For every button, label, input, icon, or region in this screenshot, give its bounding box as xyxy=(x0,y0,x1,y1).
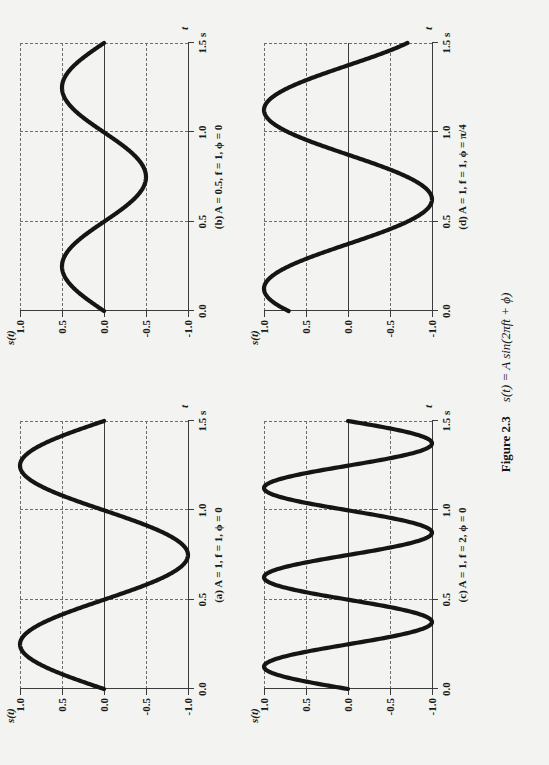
y-tick-d-3 xyxy=(390,311,391,317)
x-tick-a-0 xyxy=(188,688,194,689)
x-tick-label-c-1: 0.5 xyxy=(440,593,452,607)
chart-panel-b: 1.0 0.5 0.0 -0.5 -1.0 0.0 0.5 1.0 1.5 s … xyxy=(8,21,236,373)
y-tick-c-1 xyxy=(306,689,307,695)
x-tick-label-b-1: 0.5 xyxy=(196,215,208,229)
panel-caption-c: (c) A = 1, f = 2, ϕ = 0 xyxy=(456,421,468,689)
x-axis-title-b: t xyxy=(178,27,190,30)
y-tick-label-b-2: 0.0 xyxy=(98,320,110,334)
x-tick-label-a-0: 0.0 xyxy=(196,682,208,696)
plot-area-c: 1.0 0.5 0.0 -0.5 -1.0 0.0 0.5 1.0 1.5 s … xyxy=(264,421,432,689)
y-tick-label-a-2: 0.0 xyxy=(98,698,110,712)
y-tick-label-a-4: -1.0 xyxy=(182,698,194,715)
sine-curve-c xyxy=(264,421,432,689)
y-axis-title-d: s(t) xyxy=(248,330,260,345)
x-tick-a-2 xyxy=(188,509,194,510)
y-tick-d-4 xyxy=(432,311,433,317)
figure-sheet: 1.0 0.5 0.0 -0.5 -1.0 0.0 0.5 1.0 1.5 s … xyxy=(0,0,549,765)
y-tick-label-d-1: 0.5 xyxy=(300,320,312,334)
y-tick-c-3 xyxy=(390,689,391,695)
x-tick-d-3 xyxy=(432,42,438,43)
y-tick-label-b-4: -1.0 xyxy=(182,320,194,337)
x-axis-title-c: t xyxy=(422,405,434,408)
x-tick-c-0 xyxy=(432,688,438,689)
sine-curve-d xyxy=(264,43,432,311)
x-tick-label-d-0: 0.0 xyxy=(440,304,452,318)
x-axis-b xyxy=(188,43,189,311)
y-tick-label-c-1: 0.5 xyxy=(300,698,312,712)
y-axis-title-c: s(t) xyxy=(248,708,260,723)
y-tick-label-a-1: 0.5 xyxy=(56,698,68,712)
y-tick-a-4 xyxy=(188,689,189,695)
y-tick-label-c-2: 0.0 xyxy=(342,698,354,712)
figure-number: Figure 2.3 xyxy=(498,416,513,472)
x-tick-label-a-3: 1.5 s xyxy=(196,411,208,432)
panel-caption-d: (d) A = 1, f = 1, ϕ = π/4 xyxy=(456,43,468,311)
sine-curve-b xyxy=(20,43,188,311)
x-tick-label-c-2: 1.0 xyxy=(440,503,452,517)
figure-equation: s(t) = A sin(2πft + ϕ) xyxy=(498,293,513,402)
y-tick-a-3 xyxy=(146,689,147,695)
panel-caption-a: (a) A = 1, f = 1, ϕ = 0 xyxy=(212,421,224,689)
y-tick-b-0 xyxy=(20,311,21,317)
y-axis-title-a: s(t) xyxy=(4,708,16,723)
x-tick-d-2 xyxy=(432,131,438,132)
x-tick-label-a-1: 0.5 xyxy=(196,593,208,607)
x-tick-d-0 xyxy=(432,310,438,311)
x-tick-c-3 xyxy=(432,420,438,421)
x-tick-label-d-3: 1.5 s xyxy=(440,33,452,54)
x-tick-b-1 xyxy=(188,221,194,222)
x-tick-label-c-0: 0.0 xyxy=(440,682,452,696)
y-tick-d-1 xyxy=(306,311,307,317)
chart-panel-a: 1.0 0.5 0.0 -0.5 -1.0 0.0 0.5 1.0 1.5 s … xyxy=(8,399,236,751)
plot-area-a: 1.0 0.5 0.0 -0.5 -1.0 0.0 0.5 1.0 1.5 s … xyxy=(20,421,188,689)
x-tick-label-b-0: 0.0 xyxy=(196,304,208,318)
y-tick-c-4 xyxy=(432,689,433,695)
chart-panel-c: 1.0 0.5 0.0 -0.5 -1.0 0.0 0.5 1.0 1.5 s … xyxy=(252,399,480,751)
x-tick-b-0 xyxy=(188,310,194,311)
y-tick-label-d-2: 0.0 xyxy=(342,320,354,334)
panel-caption-b: (b) A = 0.5, f = 1, ϕ = 0 xyxy=(212,43,224,311)
x-axis-title-d: t xyxy=(422,27,434,30)
y-tick-b-4 xyxy=(188,311,189,317)
x-tick-label-d-2: 1.0 xyxy=(440,125,452,139)
y-tick-label-a-3: -0.5 xyxy=(140,698,152,715)
y-tick-label-c-3: -0.5 xyxy=(384,698,396,715)
y-axis-title-b: s(t) xyxy=(4,330,16,345)
x-tick-label-b-3: 1.5 s xyxy=(196,33,208,54)
sine-curve-a xyxy=(20,421,188,689)
x-tick-label-c-3: 1.5 s xyxy=(440,411,452,432)
x-axis-d xyxy=(432,43,433,311)
x-tick-b-3 xyxy=(188,42,194,43)
y-tick-label-d-3: -0.5 xyxy=(384,320,396,337)
chart-panel-d: 1.0 0.5 0.0 -0.5 -1.0 0.0 0.5 1.0 1.5 s … xyxy=(252,21,480,373)
figure-page: 1.0 0.5 0.0 -0.5 -1.0 0.0 0.5 1.0 1.5 s … xyxy=(0,0,549,765)
y-tick-b-1 xyxy=(62,311,63,317)
y-tick-d-0 xyxy=(264,311,265,317)
x-tick-label-d-1: 0.5 xyxy=(440,215,452,229)
y-tick-b-3 xyxy=(146,311,147,317)
plot-area-d: 1.0 0.5 0.0 -0.5 -1.0 0.0 0.5 1.0 1.5 s … xyxy=(264,43,432,311)
x-tick-label-a-2: 1.0 xyxy=(196,503,208,517)
x-tick-a-1 xyxy=(188,599,194,600)
figure-caption: Figure 2.3s(t) = A sin(2πft + ϕ) xyxy=(498,0,514,765)
y-tick-d-2 xyxy=(348,311,349,317)
x-tick-b-2 xyxy=(188,131,194,132)
x-tick-label-b-2: 1.0 xyxy=(196,125,208,139)
x-tick-d-1 xyxy=(432,221,438,222)
x-axis-title-a: t xyxy=(178,405,190,408)
x-tick-c-2 xyxy=(432,509,438,510)
y-tick-c-0 xyxy=(264,689,265,695)
y-tick-label-c-4: -1.0 xyxy=(426,698,438,715)
x-tick-c-1 xyxy=(432,599,438,600)
y-tick-a-1 xyxy=(62,689,63,695)
plot-area-b: 1.0 0.5 0.0 -0.5 -1.0 0.0 0.5 1.0 1.5 s … xyxy=(20,43,188,311)
x-axis-c xyxy=(432,421,433,689)
y-tick-a-0 xyxy=(20,689,21,695)
y-tick-label-b-1: 0.5 xyxy=(56,320,68,334)
figure-panel-grid: 1.0 0.5 0.0 -0.5 -1.0 0.0 0.5 1.0 1.5 s … xyxy=(0,0,549,765)
x-tick-a-3 xyxy=(188,420,194,421)
y-tick-label-b-3: -0.5 xyxy=(140,320,152,337)
y-tick-label-d-4: -1.0 xyxy=(426,320,438,337)
